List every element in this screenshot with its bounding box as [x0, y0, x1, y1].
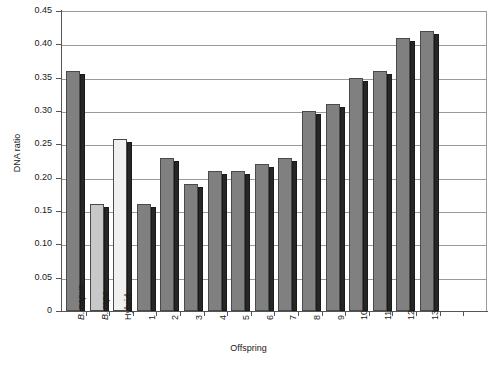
x-axis-tick-label: 7: [289, 315, 298, 320]
x-axis-tick-label: 12: [407, 310, 416, 320]
chart-figure: DNA ratio 0.450.400.350.300.250.200.150.…: [0, 0, 497, 366]
x-axis-tick-label: 2: [171, 315, 180, 320]
x-axis-tick-label: 6: [266, 315, 275, 320]
x-axis-tick-label: Hybrid: [124, 294, 133, 320]
x-axis-tick-label: 3: [195, 315, 204, 320]
x-axis-tick-label: 10: [360, 310, 369, 320]
x-axis-labels: B. napusB. rapaHybrid12345678910111213: [0, 0, 497, 366]
x-axis-tick-label: 11: [384, 311, 393, 320]
x-axis-tick-label: 1: [148, 315, 157, 320]
x-axis-tick-label: 13: [431, 310, 440, 320]
x-axis-tick-label: 5: [242, 315, 251, 320]
x-axis-tick-label: B. napus: [77, 284, 86, 320]
x-axis-tick-label: 8: [313, 315, 322, 320]
x-axis-title: Offspring: [0, 343, 497, 353]
x-axis-tick-label: 4: [219, 315, 228, 320]
x-axis-tick-label: 9: [337, 315, 346, 320]
x-axis-tick-label: B. rapa: [101, 291, 110, 320]
